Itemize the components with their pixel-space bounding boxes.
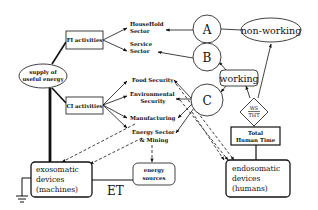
ratio-numerator: WS [250,105,259,111]
tht-label-line2: Human Time [236,137,276,143]
fi-activities-label: FI activities [67,37,103,43]
manufacturing-label: Manufacturing [130,115,176,122]
working-label: working [219,73,258,84]
energy-sector-label-line1: Energy Sector [132,129,175,136]
energy-flow-diagram: supply of useful energy FI activities CI… [0,0,318,210]
food-security-label: Food Security [132,77,174,84]
supply-label-line2: useful energy [22,76,64,83]
supply-label-line1: supply of [29,69,57,76]
endosomatic-label-line2: devices [232,174,261,183]
node-b-label: B [203,51,212,65]
exosomatic-label-line3: (machines) [36,185,78,194]
non-working-label: non-working [241,25,302,36]
energy-sources-label-line2: sources [142,175,165,181]
exosomatic-label-line1: exosomatic [36,165,79,174]
environmental-label-line2: Security [140,98,166,105]
node-a-label: A [202,23,212,37]
endosomatic-label-line3: (humans) [232,184,268,193]
environmental-label-line1: Environmental [130,91,175,97]
ci-activities-label: CI activities [66,103,102,109]
household-label-line1: HouseHold [130,21,164,27]
energy-sources-label-line1: energy [144,167,165,174]
endosomatic-label-line1: endosomatic [232,164,280,173]
ratio-denominator: THT [248,112,260,118]
service-label-line2: Sector [130,48,150,54]
household-label-line2: Sector [130,28,150,34]
tht-label-line1: Total [248,130,263,136]
energy-sector-label-line2: & Mining [140,137,169,144]
service-label-line1: Service [130,41,153,47]
node-c-label: C [202,94,211,108]
exosomatic-label-line2: devices [36,175,65,184]
et-label: ET [107,184,124,198]
